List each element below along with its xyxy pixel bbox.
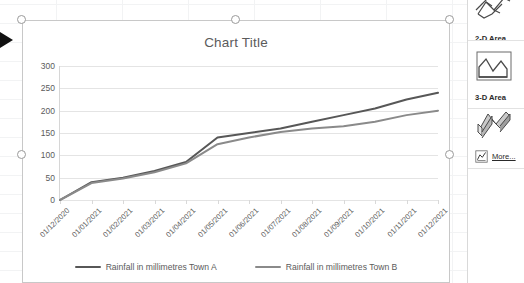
legend-color-swatch [75, 266, 101, 269]
legend-label: Rainfall in millimetres Town A [106, 262, 217, 272]
gallery-top-icon-row[interactable] [468, 0, 524, 26]
chart-object[interactable]: Chart Title 050100150200250300 01/12/202… [22, 20, 450, 283]
gallery-icon-row-2d-area[interactable] [468, 49, 524, 83]
panel-divider-2 [468, 108, 524, 109]
more-charts-link[interactable]: More... [492, 152, 516, 161]
legend-color-swatch [255, 266, 281, 269]
y-axis-tick-label: 300 [41, 61, 55, 71]
x-axis-tick [155, 200, 156, 204]
more-charts-row[interactable]: More... [468, 150, 524, 163]
y-axis-tick-label: 200 [41, 106, 55, 116]
gallery-group-label-3d-area: 3-D Area [468, 93, 524, 102]
y-axis-tick-label: 250 [41, 83, 55, 93]
chart-title[interactable]: Chart Title [22, 35, 450, 50]
x-axis-tick [407, 200, 408, 204]
x-axis-tick [186, 200, 187, 204]
chart-type-gallery-panel[interactable]: 2-D Area 3-D Area More... [467, 0, 524, 283]
more-charts-icon[interactable] [475, 150, 488, 163]
panel-divider-1 [468, 40, 524, 41]
area-chart-3d-icon[interactable] [474, 108, 514, 142]
gallery-icon-row-3d-area[interactable] [468, 108, 524, 142]
mouse-cursor-arrow [0, 32, 13, 48]
x-axis-tick [92, 200, 93, 204]
selection-handle-middle-right[interactable] [445, 150, 454, 159]
x-axis-tick [218, 200, 219, 204]
x-axis-tick [281, 200, 282, 204]
x-axis-tick [344, 200, 345, 204]
panel-divider-3 [468, 168, 524, 169]
x-axis-tick [375, 200, 376, 204]
selection-handle-top-center[interactable] [231, 15, 240, 24]
series-lines [60, 66, 438, 200]
y-axis-tick-label: 100 [41, 150, 55, 160]
series-line[interactable] [60, 111, 438, 200]
legend-label: Rainfall in millimetres Town B [286, 262, 398, 272]
selection-handle-top-left[interactable] [17, 15, 26, 24]
x-axis-tick [438, 200, 439, 204]
x-axis-tick [123, 200, 124, 204]
selection-handle-middle-left[interactable] [17, 150, 26, 159]
y-axis-tick-label: 50 [46, 173, 55, 183]
x-axis-tick [312, 200, 313, 204]
area-chart-3d-partial-icon[interactable] [474, 0, 514, 26]
y-axis-tick-label: 0 [50, 195, 55, 205]
area-chart-2d-icon[interactable] [474, 49, 514, 83]
chart-legend[interactable]: Rainfall in millimetres Town ARainfall i… [22, 262, 450, 272]
gallery-group-label-2d-area: 2-D Area [468, 34, 524, 43]
plot-area[interactable]: 050100150200250300 01/12/202001/01/20210… [60, 66, 438, 200]
legend-entry[interactable]: Rainfall in millimetres Town B [255, 262, 398, 272]
series-line[interactable] [60, 93, 438, 200]
selection-handle-top-right[interactable] [445, 15, 454, 24]
legend-entry[interactable]: Rainfall in millimetres Town A [75, 262, 217, 272]
y-axis-tick-label: 150 [41, 128, 55, 138]
x-axis-tick [249, 200, 250, 204]
